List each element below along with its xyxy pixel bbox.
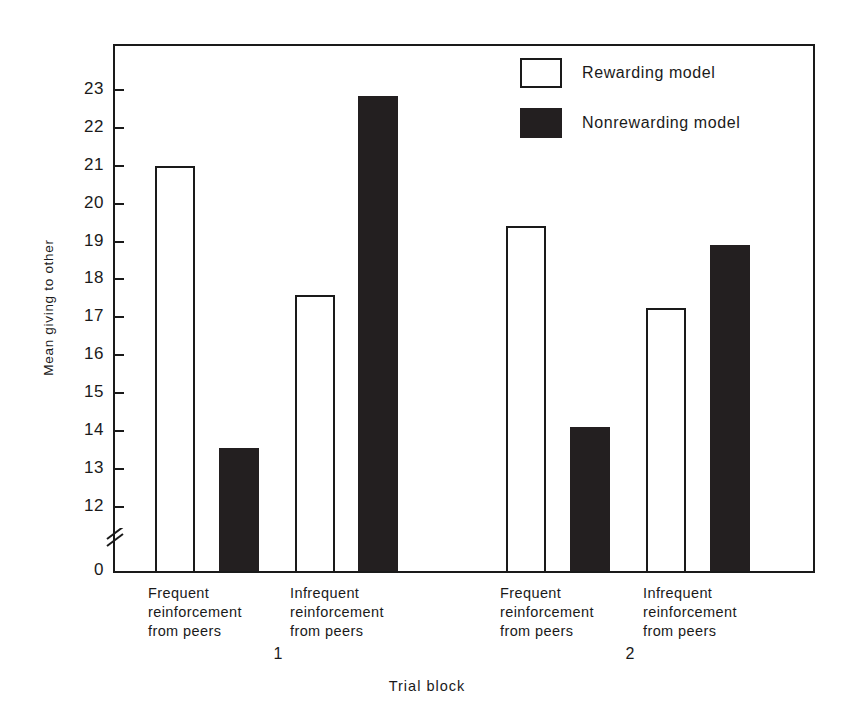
- block-label-1: 1: [258, 645, 298, 663]
- bar-nonrewarding-3: [570, 427, 610, 571]
- y-axis-tick-labels: 2322212019181716151413120: [28, 0, 104, 715]
- legend-item-rewarding: Rewarding model: [520, 58, 740, 88]
- bar-rewarding-4: [646, 308, 686, 571]
- y-tick-label-15: 15: [64, 382, 104, 402]
- legend-swatch-nonrewarding: [520, 108, 562, 138]
- x-category-label-4: Infrequent reinforcement from peers: [643, 584, 737, 641]
- bar-chart-figure: 2322212019181716151413120 Mean giving to…: [0, 0, 854, 715]
- y-tick-mark-21: [113, 165, 124, 167]
- block-label-2: 2: [610, 645, 650, 663]
- axis-break-icon: [104, 528, 126, 552]
- y-tick-label-14: 14: [64, 420, 104, 440]
- legend-item-nonrewarding: Nonrewarding model: [520, 108, 740, 138]
- bar-nonrewarding-2: [358, 96, 398, 571]
- y-tick-mark-12: [113, 506, 124, 508]
- y-tick-mark-23: [113, 89, 124, 91]
- y-tick-label-16: 16: [64, 344, 104, 364]
- x-category-label-2: Infrequent reinforcement from peers: [290, 584, 384, 641]
- y-tick-mark-20: [113, 203, 124, 205]
- y-tick-label-23: 23: [64, 79, 104, 99]
- bar-rewarding-3: [506, 226, 546, 571]
- bar-rewarding-1: [155, 166, 195, 571]
- y-tick-label-21: 21: [64, 155, 104, 175]
- legend: Rewarding model Nonrewarding model: [520, 58, 740, 158]
- y-tick-label-13: 13: [64, 458, 104, 478]
- y-tick-label-zero: 0: [64, 560, 104, 580]
- y-tick-label-22: 22: [64, 117, 104, 137]
- y-tick-label-20: 20: [64, 193, 104, 213]
- bar-nonrewarding-4: [710, 245, 750, 571]
- y-tick-mark-19: [113, 241, 124, 243]
- legend-label-nonrewarding: Nonrewarding model: [582, 114, 740, 132]
- legend-label-rewarding: Rewarding model: [582, 64, 716, 82]
- y-tick-label-12: 12: [64, 496, 104, 516]
- y-tick-mark-14: [113, 430, 124, 432]
- y-tick-label-19: 19: [64, 231, 104, 251]
- bar-rewarding-2: [295, 295, 335, 571]
- y-tick-mark-15: [113, 392, 124, 394]
- y-tick-mark-22: [113, 127, 124, 129]
- x-category-label-1: Frequent reinforcement from peers: [148, 584, 242, 641]
- y-tick-mark-17: [113, 316, 124, 318]
- y-tick-mark-16: [113, 354, 124, 356]
- y-tick-label-17: 17: [64, 306, 104, 326]
- x-category-label-3: Frequent reinforcement from peers: [500, 584, 594, 641]
- y-tick-label-18: 18: [64, 268, 104, 288]
- legend-swatch-rewarding: [520, 58, 562, 88]
- bar-nonrewarding-1: [219, 448, 259, 571]
- y-axis-title: Mean giving to other: [41, 198, 56, 418]
- y-tick-mark-13: [113, 468, 124, 470]
- x-axis-title: Trial block: [0, 678, 854, 694]
- y-tick-mark-18: [113, 278, 124, 280]
